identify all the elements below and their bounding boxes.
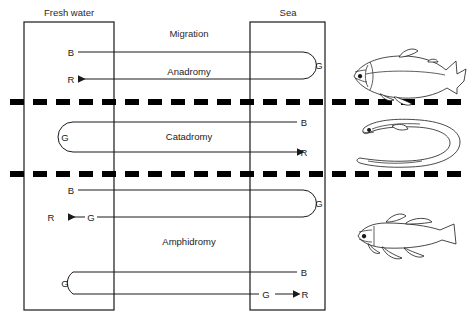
panel-label-catadromy: Catadromy [166,131,213,142]
catadromy-node-R: R [301,147,308,158]
salmon-icon [354,49,466,105]
panel-label-anadromy: Anadromy [167,66,211,77]
amphidromy-upper-node-B: B [68,185,74,196]
amphidromy-lower-node-B: B [301,267,307,278]
amphidromy-upper-node-R: R [48,212,55,223]
panel-amphidromy: Amphidromy B G G R B G G R [48,185,323,300]
fresh-water-column-box [24,22,114,310]
goby-icon [358,214,456,259]
migration-diagram: Fresh water Sea Migration Anadromy B G R… [0,0,471,325]
habitat-label-fresh-water: Fresh water [44,7,94,18]
figure-title-migration: Migration [169,28,208,39]
panel-label-amphidromy: Amphidromy [162,236,216,247]
sea-column-box [250,22,325,310]
habitat-label-sea: Sea [280,7,298,18]
amphidromy-lower-node-R: R [302,289,309,300]
panel-catadromy: Catadromy B G R [58,117,308,158]
catadromy-node-B: B [301,117,307,128]
anadromy-node-R: R [68,74,75,85]
anadromy-node-B: B [68,47,74,58]
amphidromy-lower-node-G-mid: G [262,289,269,300]
anadromy-node-G: G [315,60,322,71]
amphidromy-upper-node-G-mid: G [87,212,94,223]
amphidromy-upper-node-G-sea: G [315,198,322,209]
eel-icon [357,119,460,167]
amphidromy-lower-node-G-fresh: G [61,278,68,289]
catadromy-node-G: G [61,132,68,143]
panel-anadromy: Anadromy B G R [68,47,323,85]
diagram-canvas: Fresh water Sea Migration Anadromy B G R… [0,0,471,325]
